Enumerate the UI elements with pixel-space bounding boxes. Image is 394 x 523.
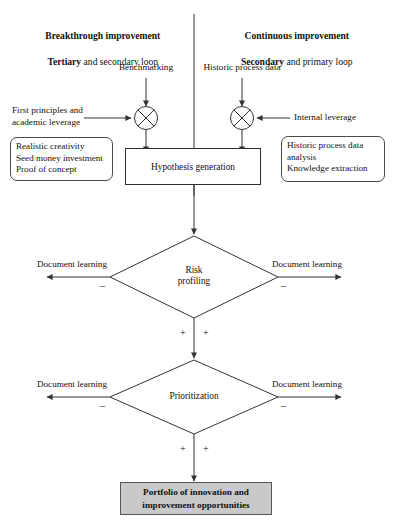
sign-prior-down-positive-right: + (203, 444, 209, 454)
left-sum-junction-circle (135, 107, 158, 130)
node-hypothesis-generation: Hypothesis generation (125, 148, 261, 185)
header-left-line2-bold: Tertiary (47, 56, 81, 67)
sign-risk-left-negative: – (100, 281, 105, 291)
node-prioritization-label: Prioritization (150, 391, 238, 402)
sign-risk-down-positive-left: + (180, 328, 186, 338)
label-first-principles: First principles and academic leverage (12, 105, 88, 128)
sign-prior-right-negative: – (281, 401, 286, 411)
header-right-line1: Continuous improvement (245, 30, 350, 41)
label-historic-process-data: Historic process data (186, 62, 298, 74)
label-internal-leverage: Internal leverage (294, 112, 390, 124)
note-box-right: Historic process data analysis Knowledge… (281, 136, 385, 182)
label-risk-right-document-learning: Document learning (272, 259, 342, 269)
header-left-line1: Breakthrough improvement (45, 30, 160, 41)
node-portfolio: Portfolio of innovation and improvement … (120, 482, 272, 515)
sign-prior-down-positive-left: + (180, 444, 186, 454)
sign-risk-down-positive-right: + (203, 328, 209, 338)
sign-risk-right-negative: – (281, 281, 286, 291)
diagram-canvas: Breakthrough improvement Tertiary and se… (0, 0, 394, 523)
label-prior-left-document-learning: Document learning (37, 379, 107, 389)
label-prior-right-document-learning: Document learning (272, 379, 342, 389)
note-box-left: Realistic creativity Seed money investme… (10, 137, 113, 181)
node-risk-profiling-label: Risk profiling (154, 265, 234, 288)
label-benchmarking: Benchmarking (96, 62, 196, 74)
label-risk-left-document-learning: Document learning (37, 259, 107, 269)
right-sum-junction-circle (231, 107, 254, 130)
sign-prior-left-negative: – (100, 401, 105, 411)
